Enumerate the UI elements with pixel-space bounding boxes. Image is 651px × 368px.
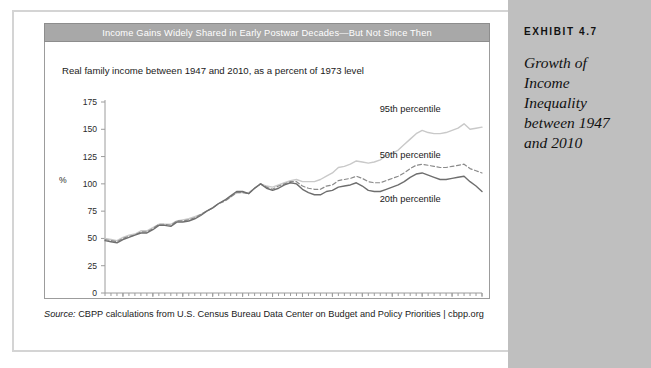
plot-area: 0255075100125150175 '50'55'60'65'70'75'8…: [45, 42, 489, 297]
y-tick-label: 0: [92, 288, 97, 297]
y-tick-label: 175: [83, 97, 98, 107]
y-axis-label: %: [59, 175, 67, 185]
y-tick-label: 100: [83, 179, 98, 189]
source-text: CBPP calculations from U.S. Census Burea…: [76, 309, 484, 319]
series-inline-labels: 95th percentile50th percentile20th perce…: [380, 104, 441, 205]
page-root: Income Gains Widely Shared in Early Post…: [0, 0, 651, 368]
source-prefix: Source:: [44, 309, 76, 319]
y-tick-label: 75: [87, 206, 97, 216]
series-inline-label: 20th percentile: [380, 194, 441, 204]
exhibit-title: Growth of Income Inequality between 1947…: [524, 53, 628, 153]
chart-card: Income Gains Widely Shared in Early Post…: [44, 23, 490, 299]
line-chart-svg: 0255075100125150175 '50'55'60'65'70'75'8…: [45, 42, 489, 297]
chart-series-group: [105, 124, 482, 243]
series-inline-label: 95th percentile: [380, 104, 441, 114]
y-tick-label: 25: [87, 261, 97, 271]
chart-header-title: Income Gains Widely Shared in Early Post…: [102, 28, 432, 38]
source-note: Source: CBPP calculations from U.S. Cens…: [44, 307, 484, 322]
y-tick-label: 50: [87, 233, 97, 243]
y-tick-label: 125: [83, 152, 98, 162]
exhibit-number-label: EXHIBIT 4.7: [524, 26, 637, 37]
y-tick-label: 150: [83, 124, 98, 134]
chart-body: Real family income between 1947 and 2010…: [44, 42, 490, 299]
exhibit-sidebar: EXHIBIT 4.7 Growth of Income Inequality …: [508, 0, 651, 368]
chart-header-bar: Income Gains Widely Shared in Early Post…: [44, 23, 490, 42]
series-inline-label: 50th percentile: [380, 150, 441, 160]
series-line: [105, 173, 482, 243]
y-axis-tick-labels: 0255075100125150175: [83, 97, 98, 297]
